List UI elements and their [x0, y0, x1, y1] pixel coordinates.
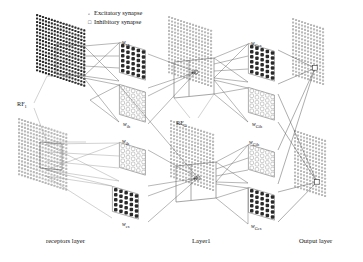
weight-label-w-ex-bot: wex — [122, 222, 130, 229]
weight-label-w-gex-bot: wGex — [251, 224, 262, 231]
rfg-label: RFG — [176, 120, 187, 129]
rf1-label: RF1 — [17, 101, 27, 110]
layer1-neuron-top[interactable] — [191, 70, 198, 74]
weight-label-w-gih-top: wGih — [252, 122, 262, 129]
layer-caption-output: Output layer — [299, 238, 332, 245]
output-neuron-bot[interactable] — [315, 180, 320, 185]
rf1-text: RF — [17, 100, 25, 107]
layer1-neuron-bot[interactable] — [193, 176, 200, 180]
layer-caption-layer1: Layer1 — [192, 238, 211, 245]
weight-label-w-gex-top: wGex — [251, 41, 262, 48]
nodes-layer — [0, 0, 363, 262]
layer-caption-receptors: receptors layer — [46, 238, 85, 245]
inhibitory-synapse-label: Inhibitory synapse — [94, 19, 141, 25]
weight-label-w-ih-bot: wih — [122, 139, 129, 146]
figure-canvas: ◦ Excitatory synapse □ Inhibitory synaps… — [0, 0, 363, 262]
weight-label-w-gih-bot: wGih — [249, 140, 259, 147]
rfg-text: RF — [176, 119, 184, 126]
rf1-subscript: 1 — [25, 104, 27, 109]
rfg-subscript: G — [184, 123, 187, 128]
excitatory-synapse-label: Excitatory synapse — [94, 10, 142, 16]
weight-label-w-ih-top: wih — [123, 122, 130, 129]
excitatory-synapse-icon: ◦ — [88, 12, 90, 17]
output-neuron-top[interactable] — [313, 66, 318, 71]
inhibitory-synapse-icon: □ — [88, 20, 91, 25]
weight-label-w-ex-top: wex — [122, 40, 130, 47]
